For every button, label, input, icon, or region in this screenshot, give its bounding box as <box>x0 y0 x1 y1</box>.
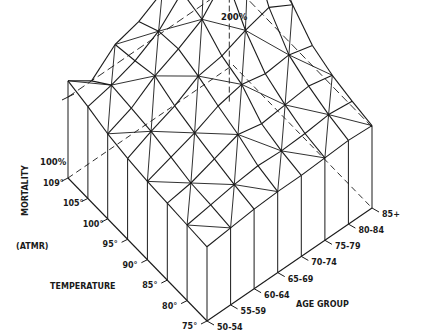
wire-line <box>131 76 155 108</box>
wire-line <box>155 49 179 76</box>
wire-line <box>191 159 215 183</box>
wire-line <box>202 19 222 56</box>
wire-line <box>231 209 255 228</box>
wire-line <box>167 183 191 203</box>
wire-line <box>234 185 277 192</box>
wire-line <box>195 76 199 133</box>
wire-line <box>211 185 235 205</box>
wire-line <box>178 49 198 76</box>
wire-line <box>332 75 352 101</box>
wire-line <box>258 151 282 166</box>
y-axis-label: AGE GROUP <box>296 300 349 309</box>
wire-line <box>242 74 266 85</box>
wire-line <box>151 131 171 157</box>
wire-line <box>181 301 187 304</box>
wire-line <box>147 131 151 181</box>
age-group-tick-label: 65-69 <box>288 275 314 284</box>
wire-line <box>352 101 372 125</box>
wire-line <box>301 158 325 176</box>
wire-line <box>111 85 131 108</box>
wire-line <box>242 84 262 123</box>
wire-line <box>285 105 329 115</box>
wire-line <box>278 273 285 277</box>
wire-line <box>325 140 349 158</box>
wire-line <box>191 183 211 205</box>
wire-line <box>139 22 159 32</box>
wire-line <box>234 135 238 185</box>
age-group-tick-label: 60-64 <box>264 291 290 300</box>
wire-line <box>141 260 147 263</box>
temperature-tick-label: 80° <box>162 302 177 311</box>
wire-line <box>171 157 191 183</box>
wire-line <box>207 321 214 325</box>
temperature-tick-label: 95° <box>103 240 118 249</box>
temperature-tick-label: 85° <box>142 281 157 290</box>
wire-line <box>88 107 108 134</box>
wire-line <box>305 134 325 158</box>
wire-line <box>222 30 246 56</box>
wire-line <box>249 0 293 5</box>
wire-line <box>111 61 135 85</box>
temperature-tick-label: 109° <box>43 179 64 188</box>
wire-line <box>131 108 151 131</box>
wire-line <box>155 31 159 76</box>
wire-line <box>155 76 175 106</box>
wire-line <box>281 151 301 176</box>
wire-line <box>207 228 231 247</box>
wire-line <box>231 305 238 309</box>
wire-line <box>135 61 155 76</box>
wire-line <box>305 115 329 134</box>
age-group-tick-label: 80-84 <box>358 226 384 235</box>
wire-line <box>285 86 309 105</box>
wire-line <box>278 151 282 192</box>
age-group-tick-label: 70-74 <box>311 258 337 267</box>
age-group-tick-label: 55-59 <box>241 307 267 316</box>
wire-line <box>147 157 171 181</box>
wire-line <box>231 185 235 228</box>
wire-line <box>198 56 222 76</box>
wire-line <box>111 76 154 85</box>
wire-line <box>68 81 88 107</box>
wire-line <box>301 256 308 260</box>
wire-line <box>128 131 152 158</box>
wire-line <box>245 30 289 55</box>
wire-line <box>211 205 231 228</box>
wire-line <box>159 31 179 49</box>
age-group-ticks: 50-5455-5960-6465-6970-7475-7980-8485+ <box>207 208 400 332</box>
wire-line <box>348 126 372 141</box>
wire-line <box>108 134 128 159</box>
z-tick-100: 100% <box>40 157 67 167</box>
age-group-tick-label: 85+ <box>382 210 400 219</box>
wire-line <box>122 239 128 242</box>
wire-line <box>195 133 238 135</box>
wire-line <box>214 135 238 159</box>
wire-line <box>175 106 195 133</box>
wire-line <box>68 178 207 321</box>
wire-line <box>111 45 115 86</box>
wire-line <box>195 133 215 159</box>
z-axis-sublabel: (ATMR) <box>16 242 48 251</box>
wire-line <box>187 225 207 247</box>
wire-line <box>278 175 302 191</box>
wire-line <box>128 158 148 181</box>
wire-line <box>171 133 195 157</box>
temperature-tick-label: 105° <box>63 199 84 208</box>
wire-line <box>151 131 195 133</box>
wire-line <box>254 289 261 293</box>
wire-line <box>262 105 286 124</box>
wire-line <box>238 135 258 166</box>
wire-line <box>182 0 202 19</box>
wire-line <box>329 101 353 114</box>
wire-line <box>187 183 191 225</box>
wire-line <box>289 5 293 55</box>
wire-line <box>191 183 234 185</box>
wire-line <box>218 84 242 106</box>
wire-line <box>233 65 372 208</box>
wire-line <box>325 115 329 158</box>
age-group-tick-label: 75-79 <box>335 242 361 251</box>
wire-line <box>309 86 329 115</box>
wire-line <box>265 55 289 74</box>
wire-line <box>108 131 151 134</box>
wire-line <box>147 181 191 183</box>
age-group-tick-label: 50-54 <box>217 323 243 332</box>
